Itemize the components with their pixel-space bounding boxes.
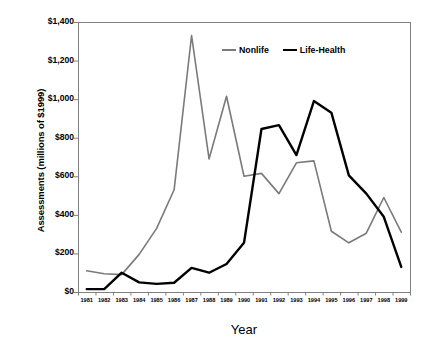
- legend-swatch-nonlife-icon: [222, 49, 236, 51]
- legend-label-nonlife: Nonlife: [239, 45, 269, 55]
- x-axis-tick-label: 1999: [389, 298, 413, 304]
- legend-label-life-health: Life-Health: [300, 45, 345, 55]
- x-axis-title: Year: [78, 322, 410, 337]
- legend-item-life-health: Life-Health: [283, 45, 345, 55]
- line-chart: Assessments (millions of $1999) $0$200$4…: [0, 0, 434, 351]
- legend: Nonlife Life-Health: [222, 45, 345, 55]
- legend-swatch-life-health-icon: [283, 49, 297, 51]
- legend-item-nonlife: Nonlife: [222, 45, 269, 55]
- plot-frame: [79, 23, 411, 293]
